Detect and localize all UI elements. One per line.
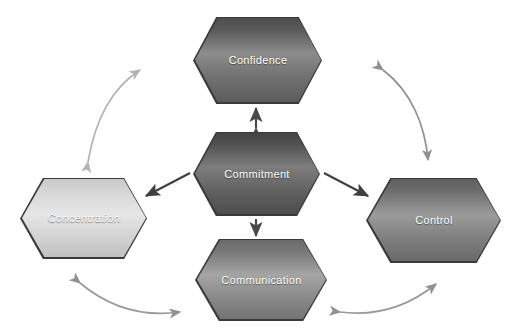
node-concentration-label: Concentration	[48, 212, 120, 224]
node-confidence[interactable]: Confidence	[195, 18, 321, 102]
node-communication-label: Communication	[221, 274, 301, 286]
connector-communication-control	[340, 284, 436, 313]
node-control[interactable]: Control	[368, 179, 500, 261]
diagram-canvas: Confidence Commitment Concentration Cont…	[0, 0, 509, 335]
connector-concentration-communication	[80, 283, 180, 313]
node-commitment[interactable]: Commitment	[195, 133, 319, 214]
connector-commitment-concentration	[146, 173, 190, 196]
node-confidence-label: Confidence	[229, 54, 288, 66]
connector-confidence-control	[383, 70, 428, 160]
node-commitment-label: Commitment	[224, 168, 289, 180]
node-concentration[interactable]: Concentration	[22, 179, 146, 257]
connector-concentration-confidence	[88, 70, 140, 162]
connector-commitment-control	[324, 173, 368, 196]
node-communication[interactable]: Communication	[197, 240, 326, 319]
node-control-label: Control	[415, 214, 453, 226]
